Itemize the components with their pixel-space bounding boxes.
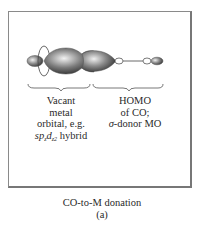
left-brace <box>28 84 90 91</box>
hybrid-label: spzdz2 hybrid <box>22 130 100 146</box>
homo-co-label: HOMO of CO; σ-donor MO <box>96 95 174 130</box>
label-line: Vacant <box>22 95 100 107</box>
co-node-lobe-2 <box>143 58 151 64</box>
metal-small-lobe <box>27 56 43 67</box>
vacant-metal-orbital-label: Vacant metal orbital, e.g. spzdz2 hybrid <box>22 95 100 145</box>
co-node-lobe-1 <box>115 58 123 64</box>
right-brace <box>93 84 163 91</box>
label-line: orbital, e.g. <box>22 118 100 130</box>
label-line: HOMO <box>96 95 174 107</box>
label-line: of CO; <box>96 107 174 119</box>
co-end-lobe <box>151 57 163 65</box>
co-sigma-lobe <box>82 51 116 72</box>
figure-caption: CO-to-M donation <box>0 197 204 208</box>
label-line: metal <box>22 107 100 119</box>
sigma-donor-label: σ-donor MO <box>96 118 174 130</box>
panel-label: (a) <box>0 209 204 220</box>
